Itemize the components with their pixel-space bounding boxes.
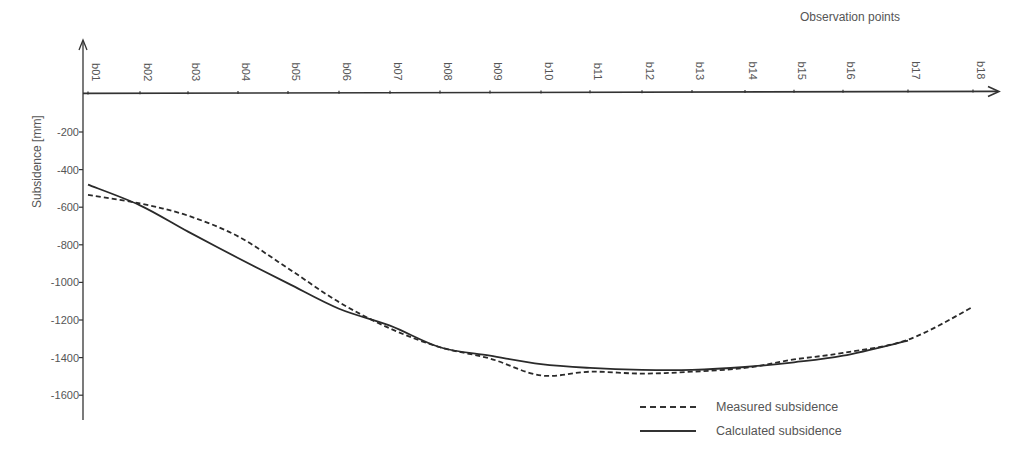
x-tick-label: b17 [910, 61, 922, 79]
x-tick-label: b08 [442, 62, 454, 80]
x-tick-label: b02 [142, 63, 154, 81]
calculated-subsidence-line [88, 185, 908, 370]
measured-subsidence-line [88, 195, 973, 376]
x-axis-title: Observation points [800, 10, 900, 24]
x-tick-label: b13 [694, 62, 706, 80]
x-tick-label: b06 [341, 62, 353, 80]
y-tick-label: -800 [57, 239, 79, 251]
x-tick-label: b01 [90, 63, 102, 81]
y-tick-label: -1200 [51, 314, 79, 326]
subsidence-chart: b01b02b03b04b05b06b07b08b09b10b11b12b13b… [0, 0, 1028, 466]
x-tick-label: b16 [845, 61, 857, 79]
x-tick-label: b15 [796, 61, 808, 79]
axes: b01b02b03b04b05b06b07b08b09b10b11b12b13b… [30, 10, 999, 420]
dashed-line-swatch [640, 406, 696, 408]
y-tick-label: -600 [57, 201, 79, 213]
y-axis-title: Subsidence [mm] [30, 115, 44, 208]
x-tick-label: b05 [290, 63, 302, 81]
x-tick-label: b10 [543, 62, 555, 80]
x-tick-label: b04 [240, 63, 252, 81]
legend-label-measured: Measured subsidence [716, 400, 838, 414]
y-tick-label: -1000 [51, 276, 79, 288]
legend-label-calculated: Calculated subsidence [716, 424, 842, 438]
y-tick-label: -400 [57, 164, 79, 176]
y-tick-label: -1600 [51, 389, 79, 401]
series [88, 185, 973, 376]
legend-item-calculated: Calculated subsidence [640, 419, 842, 443]
y-tick-label: -1400 [51, 352, 79, 364]
legend-item-measured: Measured subsidence [640, 395, 842, 419]
x-tick-label: b12 [644, 62, 656, 80]
x-tick-label: b14 [747, 62, 759, 80]
x-tick-label: b03 [190, 63, 202, 81]
x-tick-label: b11 [592, 63, 604, 81]
y-tick-label: -200 [57, 126, 79, 138]
x-tick-label: b18 [975, 61, 987, 79]
legend: Measured subsidence Calculated subsidenc… [640, 395, 842, 443]
x-tick-label: b09 [492, 62, 504, 80]
solid-line-swatch [640, 430, 696, 432]
x-tick-label: b07 [392, 62, 404, 80]
